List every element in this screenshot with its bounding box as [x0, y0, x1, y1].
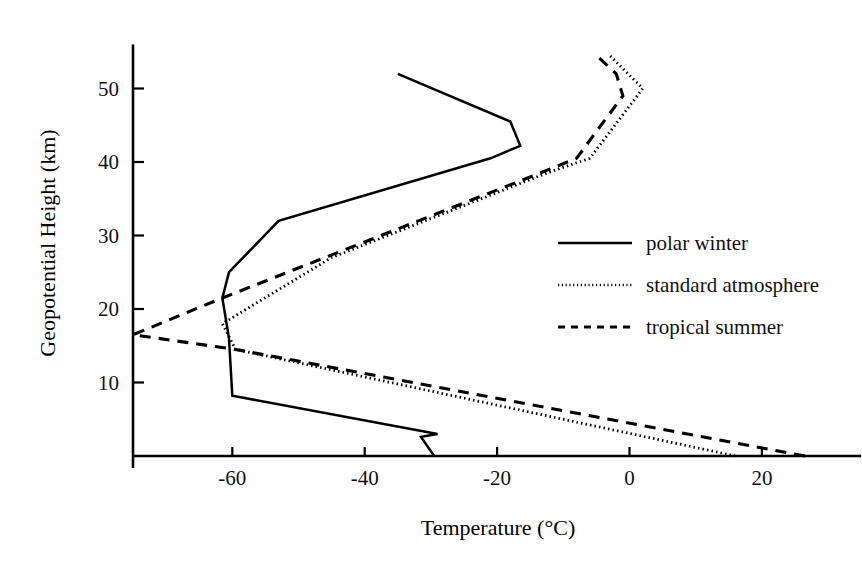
legend-item-polar-winter: polar winter [556, 222, 856, 264]
y-axis-title: Geopotential Height (km) [35, 83, 61, 403]
legend-swatch-dashed-icon [556, 320, 634, 334]
legend-label-standard-atmosphere: standard atmosphere [646, 273, 819, 298]
y-tick-label: 30 [55, 223, 119, 248]
legend-item-standard-atmosphere: standard atmosphere [556, 264, 856, 306]
legend-item-tropical-summer: tropical summer [556, 306, 856, 348]
x-tick-label: 0 [624, 466, 635, 491]
x-axis-title: Temperature (°C) [268, 515, 728, 541]
x-tick-label: 20 [751, 466, 772, 491]
curve-polar-winter [222, 74, 520, 456]
legend-swatch-solid-icon [556, 236, 634, 250]
x-tick-label: -40 [351, 466, 379, 491]
x-tick-label: -60 [218, 466, 246, 491]
legend-swatch-dotted-icon [556, 278, 634, 292]
legend-label-tropical-summer: tropical summer [646, 315, 783, 340]
y-tick-label: 10 [55, 370, 119, 395]
temperature-profile-chart: -60-40-200201020304050 Geopotential Heig… [0, 0, 862, 574]
legend-label-polar-winter: polar winter [646, 231, 748, 256]
y-tick-label: 40 [55, 150, 119, 175]
y-tick-label: 50 [55, 76, 119, 101]
x-tick-label: -20 [483, 466, 511, 491]
y-tick-label: 20 [55, 297, 119, 322]
chart-legend: polar winter standard atmosphere tropica… [556, 222, 856, 348]
